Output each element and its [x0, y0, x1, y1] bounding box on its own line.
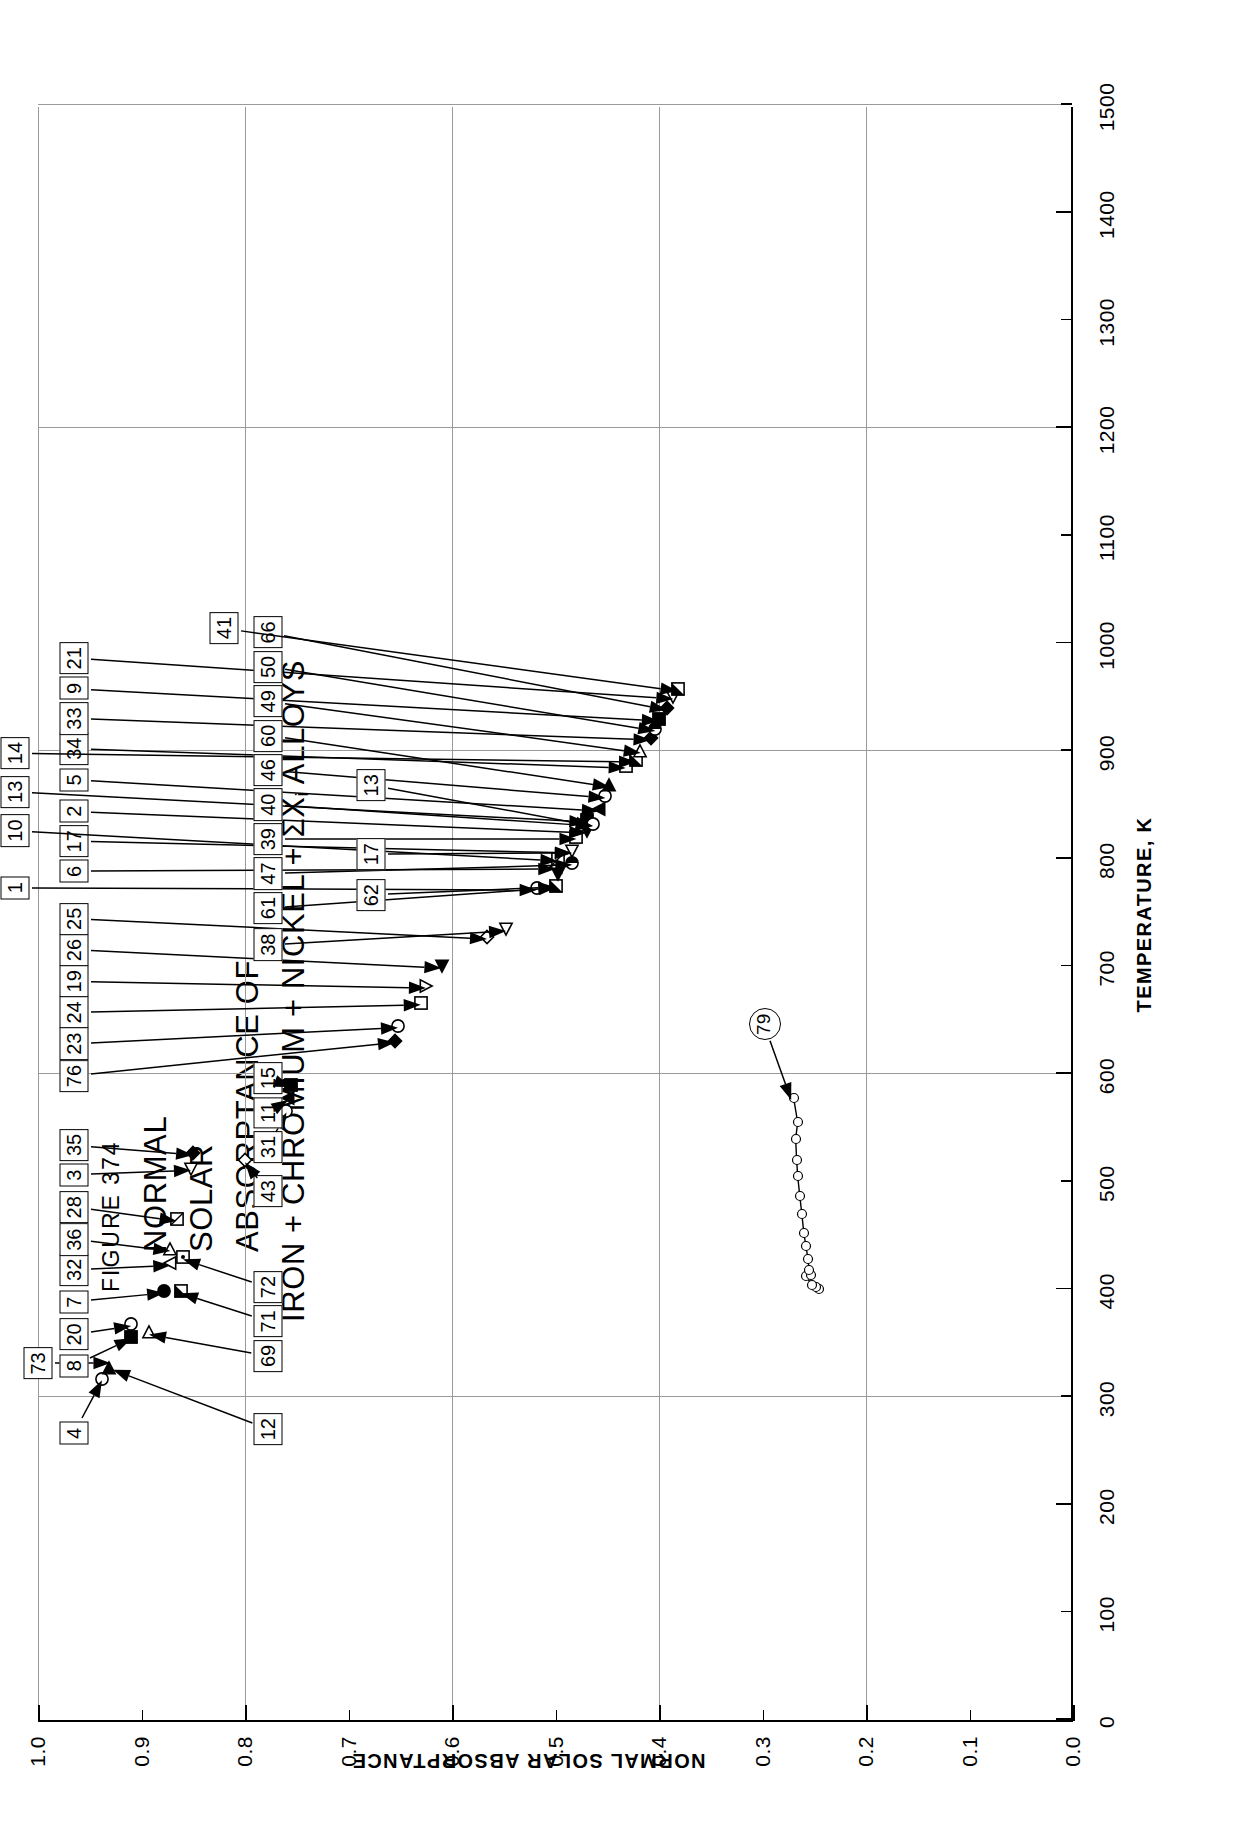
x-tick-label: 1500 [1095, 83, 1119, 132]
callout-tag-50[interactable]: 50 [253, 651, 282, 683]
figure-sheet: FIGURE 374 NORMAL SOLAR ABSORPTANCE OF I… [0, 0, 1240, 1834]
y-tick-label: 0.1 [958, 1736, 982, 1794]
callout-tag-71[interactable]: 71 [253, 1305, 282, 1337]
callout-tag-10[interactable]: 10 [1, 814, 30, 846]
callout-tag-2[interactable]: 2 [60, 800, 89, 823]
callout-tag-21[interactable]: 21 [60, 642, 89, 674]
y-tick-label: 1.0 [26, 1736, 50, 1794]
curve-point-marker [788, 1092, 799, 1103]
callout-tag-49[interactable]: 49 [253, 685, 282, 717]
curve-point-marker [792, 1171, 803, 1182]
callout-tag-25[interactable]: 25 [60, 903, 89, 935]
callout-tag-46[interactable]: 46 [253, 754, 282, 786]
callout-tag-73[interactable]: 73 [24, 1347, 53, 1379]
callout-tag-40[interactable]: 40 [253, 789, 282, 821]
x-tick-label: 0 [1095, 1716, 1119, 1728]
callout-tag-28[interactable]: 28 [60, 1191, 89, 1223]
callout-tag-20[interactable]: 20 [60, 1318, 89, 1350]
callout-tag-34[interactable]: 34 [60, 733, 89, 765]
callout-tag-9[interactable]: 9 [60, 677, 89, 700]
callout-tag-39[interactable]: 39 [253, 823, 282, 855]
callout-tag-60[interactable]: 60 [253, 720, 282, 752]
x-tick-label: 600 [1095, 1058, 1119, 1095]
callout-tag-6[interactable]: 6 [60, 860, 89, 883]
callout-tag-13[interactable]: 13 [1, 776, 30, 808]
curve-point-marker [796, 1208, 807, 1219]
y-tick-label: 0.2 [854, 1736, 878, 1794]
callout-tag-47[interactable]: 47 [253, 857, 282, 889]
rotated-figure-canvas: FIGURE 374 NORMAL SOLAR ABSORPTANCE OF I… [0, 0, 1240, 1834]
y-tick-label: 0.0 [1061, 1736, 1085, 1794]
x-tick-label: 500 [1095, 1165, 1119, 1202]
callout-tag-72[interactable]: 72 [253, 1271, 282, 1303]
callout-tag-11[interactable]: 11 [253, 1097, 282, 1128]
callout-tag-33[interactable]: 33 [60, 702, 89, 734]
x-tick-label: 800 [1095, 842, 1119, 879]
y-tick-label: 0.5 [544, 1736, 568, 1794]
curve-point-marker [791, 1155, 802, 1166]
y-tick-label: 0.6 [440, 1736, 464, 1794]
y-tick-label: 0.8 [233, 1736, 257, 1794]
curve-point-marker [798, 1228, 809, 1239]
callout-tag-61[interactable]: 61 [253, 892, 282, 924]
y-tick-label: 0.3 [751, 1736, 775, 1794]
y-tick-label: 0.4 [647, 1736, 671, 1794]
callout-tag-23[interactable]: 23 [60, 1028, 89, 1060]
x-tick-label: 300 [1095, 1381, 1119, 1418]
callout-tag-14[interactable]: 14 [1, 737, 30, 769]
callout-tag-24[interactable]: 24 [60, 996, 89, 1028]
callout-tag-7[interactable]: 7 [60, 1291, 89, 1314]
curve-point-marker [794, 1190, 805, 1201]
callout-tag-76[interactable]: 76 [60, 1060, 89, 1092]
y-tick-label: 0.9 [130, 1736, 154, 1794]
curve-79 [38, 105, 1073, 1720]
curve-point-marker [790, 1133, 801, 1144]
callout-tag-19[interactable]: 19 [60, 965, 89, 997]
callout-tag-36[interactable]: 36 [60, 1224, 89, 1256]
curve-point-marker [804, 1264, 815, 1275]
callout-tag-17[interactable]: 17 [60, 825, 89, 857]
y-tick-label: 0.7 [337, 1736, 361, 1794]
x-tick-label: 100 [1095, 1596, 1119, 1633]
x-tick-label: 200 [1095, 1488, 1119, 1525]
callout-tag-12[interactable]: 12 [253, 1413, 282, 1445]
x-tick-label: 900 [1095, 735, 1119, 772]
x-tick-label: 1200 [1095, 406, 1119, 455]
curve-point-marker [803, 1254, 814, 1265]
callout-tag-17[interactable]: 17 [357, 838, 386, 870]
x-tick-label: 1100 [1095, 514, 1119, 561]
callout-tag-38[interactable]: 38 [253, 929, 282, 961]
y-tick [1073, 1705, 1075, 1721]
callout-tag-35[interactable]: 35 [60, 1129, 89, 1161]
x-tick-label: 1300 [1095, 298, 1119, 347]
callout-tag-1[interactable]: 1 [1, 876, 30, 899]
callout-tag-43[interactable]: 43 [253, 1175, 282, 1207]
callout-tag-66[interactable]: 66 [253, 616, 282, 648]
callout-tag-26[interactable]: 26 [60, 934, 89, 966]
callout-tag-5[interactable]: 5 [60, 768, 89, 791]
callout-tag-8[interactable]: 8 [60, 1354, 89, 1377]
callout-tag-4[interactable]: 4 [60, 1422, 89, 1445]
x-axis-title: TEMPERATURE, K [1133, 817, 1156, 1013]
callout-tag-69[interactable]: 69 [253, 1340, 282, 1372]
plot-area [38, 107, 1073, 1722]
x-tick-label: 700 [1095, 950, 1119, 987]
callout-tag-3[interactable]: 3 [60, 1164, 89, 1187]
curve-point-marker [800, 1241, 811, 1252]
callout-tag-62[interactable]: 62 [357, 879, 386, 911]
callout-tag-31[interactable]: 31 [253, 1131, 282, 1163]
callout-tag-13[interactable]: 13 [357, 769, 386, 801]
callout-tag-15[interactable]: 15 [253, 1062, 282, 1094]
curve-point-marker [792, 1117, 803, 1128]
callout-tag-32[interactable]: 32 [60, 1254, 89, 1286]
callout-tag-79[interactable]: 79 [749, 1008, 781, 1040]
x-tick-label: 400 [1095, 1273, 1119, 1310]
x-tick-label: 1400 [1095, 190, 1119, 239]
callout-tag-41[interactable]: 41 [210, 612, 239, 644]
x-tick-label: 1000 [1095, 621, 1119, 670]
